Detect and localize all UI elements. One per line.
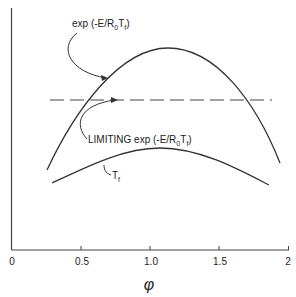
tick-label-1.5: 1.5	[213, 256, 227, 267]
tf-curve	[52, 148, 269, 185]
tick-label-0.5: 0.5	[75, 256, 89, 267]
tick-label-2: 2	[285, 256, 291, 267]
x-axis-label: φ	[144, 276, 154, 293]
arrowhead-icon	[101, 75, 108, 81]
exp-label-arrow	[68, 33, 106, 78]
x-tick-labels: 0 0.5 1.0 1.5 2	[9, 256, 291, 267]
exp-curve	[47, 48, 280, 170]
tf-label-arrow	[104, 165, 111, 175]
arrowhead-icon	[111, 97, 118, 103]
tick-label-0: 0	[9, 256, 15, 267]
limiting-label: LIMITING exp (-E/R0Tf)	[88, 134, 192, 147]
tf-label: Tf	[112, 170, 120, 183]
chart: 0 0.5 1.0 1.5 2 φ exp (-E/R0Tf) LIMITING…	[0, 0, 296, 297]
exp-label: exp (-E/R0Tf)	[72, 18, 130, 31]
tick-label-1.0: 1.0	[144, 256, 158, 267]
